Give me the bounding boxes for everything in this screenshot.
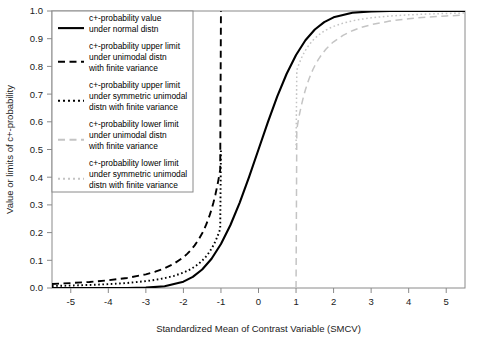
legend-label-2: distn with finite variance	[89, 102, 178, 112]
y-axis-title: Value or limits of c+-probability	[4, 85, 15, 214]
legend-label-1: with finite variance	[88, 63, 158, 73]
x-tick-label: -3	[142, 296, 150, 307]
legend-label-0: under normal distn	[89, 24, 159, 34]
x-tick-label: 5	[444, 296, 449, 307]
series-line-3	[296, 15, 465, 288]
legend-label-2: c+-probability upper limit	[89, 80, 181, 90]
x-tick-label: 3	[368, 296, 373, 307]
y-tick-label: 0.8	[30, 61, 43, 72]
y-tick-label: 0.5	[30, 144, 43, 155]
y-tick-label: 0.3	[30, 199, 43, 210]
y-tick-label: 1.0	[30, 5, 43, 16]
x-tick-label: 1	[293, 296, 298, 307]
x-tick-label: 4	[406, 296, 411, 307]
legend-label-3: c+-probability lower limit	[89, 119, 179, 129]
y-tick-label: 0.4	[30, 172, 43, 183]
x-tick-label: 0	[256, 296, 261, 307]
legend-label-4: distn with finite variance	[89, 180, 178, 190]
series-line-4	[296, 13, 465, 149]
legend-label-3: with finite variance	[88, 141, 158, 151]
y-tick-label: 0.0	[30, 282, 43, 293]
chart-canvas: -5-4-3-2-10123450.00.10.20.30.40.50.60.7…	[0, 0, 477, 341]
legend-label-2: under symmetric unimodal	[89, 91, 187, 101]
legend-label-4: under symmetric unimodal	[89, 169, 187, 179]
x-tick-label: -2	[179, 296, 187, 307]
legend-label-1: c+-probability upper limit	[89, 41, 181, 51]
chart-plot: -5-4-3-2-10123450.00.10.20.30.40.50.60.7…	[0, 0, 477, 341]
x-tick-label: -5	[67, 296, 75, 307]
y-tick-label: 0.9	[30, 33, 43, 44]
y-tick-label: 0.2	[30, 227, 43, 238]
y-tick-label: 0.6	[30, 116, 43, 127]
legend-label-4: c+-probability lower limit	[89, 158, 179, 168]
legend-label-3: under unimodal distn	[89, 130, 167, 140]
x-tick-label: 2	[331, 296, 336, 307]
legend-label-1: under unimodal distn	[89, 52, 167, 62]
legend-label-0: c+-probability value	[89, 13, 162, 23]
y-tick-label: 0.1	[30, 255, 43, 266]
legend: c+-probability valueunder normal distnc+…	[52, 11, 193, 192]
y-tick-label: 0.7	[30, 89, 43, 100]
x-axis-title: Standardized Mean of Contrast Variable (…	[156, 323, 361, 334]
x-tick-label: -1	[217, 296, 225, 307]
x-tick-label: -4	[104, 296, 112, 307]
